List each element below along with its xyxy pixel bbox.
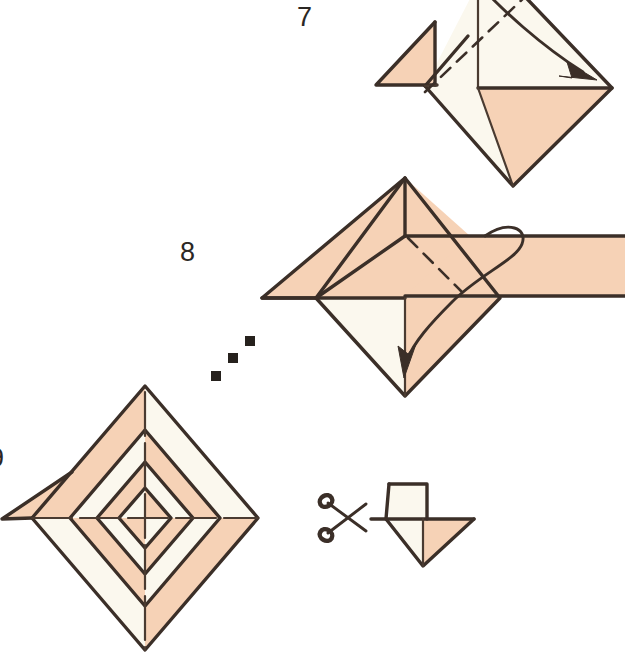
- cut-target-shape: [371, 484, 474, 566]
- origami-diagram-page: .fill-front { fill: #f6d2b6; } .fill-bac…: [0, 0, 625, 657]
- diagonal-dot-separator: [211, 336, 255, 381]
- step-number-8: 8: [180, 237, 196, 268]
- step-number-9: 9: [0, 443, 5, 474]
- origami-figure-step-8: [262, 178, 625, 396]
- step-number-7: 7: [297, 2, 313, 33]
- origami-figure-step-9: [2, 386, 258, 650]
- origami-figure-step-7: [376, 0, 612, 186]
- separator-dot: [211, 371, 221, 381]
- separator-dot: [245, 336, 255, 346]
- cut-with-scissors: [318, 484, 474, 566]
- scissors-icon: [318, 493, 366, 543]
- separator-dot: [228, 353, 238, 363]
- diagram-canvas: .fill-front { fill: #f6d2b6; } .fill-bac…: [0, 0, 625, 657]
